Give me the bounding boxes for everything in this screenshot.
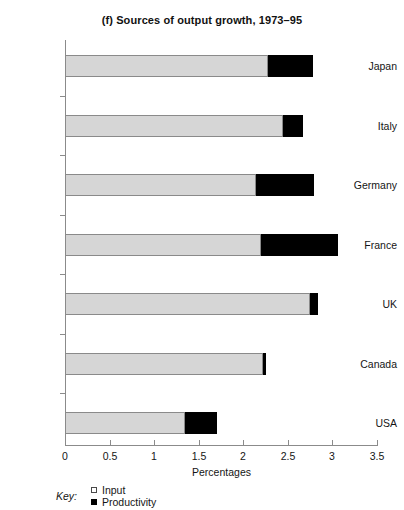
category-label-canada: Canada	[346, 358, 404, 370]
category-label-germany: Germany	[346, 179, 404, 191]
x-axis-tick	[154, 440, 155, 445]
bar-segment-input	[65, 293, 310, 315]
bar-segment-productivity	[263, 353, 267, 375]
x-axis-tick-label: 0	[45, 450, 85, 462]
x-axis-tick	[332, 440, 333, 445]
x-axis-tick	[65, 440, 66, 445]
x-axis-tick	[110, 440, 111, 445]
bar-segment-productivity	[261, 234, 338, 256]
bar-segment-input	[65, 55, 268, 77]
category-label-usa: USA	[346, 417, 404, 429]
legend-key-label: Key:	[56, 490, 77, 502]
chart-title: (f) Sources of output growth, 1973–95	[0, 14, 404, 26]
legend-entry-label: Input	[102, 484, 125, 496]
x-axis-tick-label: 3.5	[357, 450, 397, 462]
legend-entry-label: Productivity	[102, 496, 156, 508]
x-axis-tick-label: 1	[134, 450, 174, 462]
category-label-italy: Italy	[346, 120, 404, 132]
category-label-uk: UK	[346, 298, 404, 310]
bar-segment-input	[65, 234, 261, 256]
category-label-france: France	[346, 239, 404, 251]
y-axis-tick	[60, 215, 65, 216]
bar-segment-input	[65, 353, 263, 375]
bar-segment-input	[65, 412, 185, 434]
category-label-japan: Japan	[346, 60, 404, 72]
x-axis-tick-label: 2	[223, 450, 263, 462]
x-axis-tick-label: 0.5	[90, 450, 130, 462]
bar-segment-productivity	[256, 174, 314, 196]
legend-entry-input: Input	[91, 484, 156, 496]
y-axis-tick	[60, 155, 65, 156]
x-axis-tick	[377, 440, 378, 445]
x-axis-tick	[199, 440, 200, 445]
legend-entry-productivity: Productivity	[91, 496, 156, 508]
x-axis-tick-label: 3	[312, 450, 352, 462]
bar-segment-input	[65, 174, 256, 196]
x-axis-title: Percentages	[65, 466, 378, 478]
figure-container: (f) Sources of output growth, 1973–95 Ja…	[0, 0, 404, 510]
x-axis-tick-label: 1.5	[179, 450, 219, 462]
filled-square-icon	[91, 499, 97, 505]
y-axis-tick	[60, 274, 65, 275]
legend: Key: InputProductivity	[56, 484, 167, 508]
x-axis-tick	[288, 440, 289, 445]
x-axis-tick	[243, 440, 244, 445]
x-axis-tick-label: 2.5	[268, 450, 308, 462]
bar-segment-productivity	[283, 115, 303, 137]
bar-segment-input	[65, 115, 283, 137]
open-square-icon	[91, 487, 97, 493]
y-axis-tick	[60, 96, 65, 97]
y-axis-tick	[60, 334, 65, 335]
bar-segment-productivity	[310, 293, 318, 315]
y-axis-tick	[60, 393, 65, 394]
bar-segment-productivity	[185, 412, 216, 434]
x-axis-line	[65, 445, 378, 446]
bar-segment-productivity	[268, 55, 313, 77]
legend-entries: InputProductivity	[91, 484, 167, 508]
